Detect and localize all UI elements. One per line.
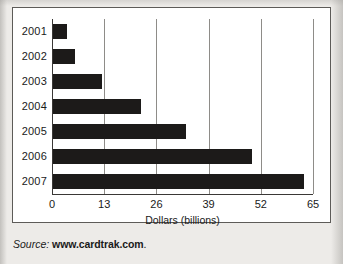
x-axis-line	[52, 194, 313, 195]
chart-card: 200120022003200420052006200701326395265 …	[12, 7, 331, 223]
source-label: Source:	[13, 238, 49, 250]
x-tick-label: 13	[91, 198, 117, 210]
source-url: www.cardtrak.com	[52, 238, 143, 250]
x-tick-label: 65	[300, 198, 326, 210]
bar-row: 2005	[13, 119, 332, 144]
bar	[53, 174, 304, 189]
bar-row: 2003	[13, 69, 332, 94]
x-tick-label: 0	[39, 198, 65, 210]
x-tick-label: 52	[248, 198, 274, 210]
category-label: 2001	[13, 24, 47, 39]
bar	[53, 99, 141, 114]
bar-row: 2004	[13, 94, 332, 119]
bar	[53, 24, 67, 39]
bar-row: 2002	[13, 44, 332, 69]
x-tick-label: 26	[143, 198, 169, 210]
bar-chart-plot-area: 200120022003200420052006200701326395265	[13, 8, 332, 224]
category-label: 2006	[13, 149, 47, 164]
bar	[53, 149, 252, 164]
category-label: 2002	[13, 49, 47, 64]
figure-container: 200120022003200420052006200701326395265 …	[0, 0, 343, 264]
bar-row: 2001	[13, 19, 332, 44]
bar	[53, 74, 102, 89]
category-label: 2003	[13, 74, 47, 89]
category-label: 2004	[13, 99, 47, 114]
category-label: 2007	[13, 174, 47, 189]
source-period: .	[144, 238, 147, 250]
bar-row: 2006	[13, 144, 332, 169]
bar	[53, 124, 186, 139]
x-axis-title: Dollars (billions)	[52, 214, 313, 226]
bar-row: 2007	[13, 169, 332, 194]
source-note: Source: www.cardtrak.com.	[13, 238, 146, 250]
bar	[53, 49, 75, 64]
category-label: 2005	[13, 124, 47, 139]
x-tick-label: 39	[196, 198, 222, 210]
